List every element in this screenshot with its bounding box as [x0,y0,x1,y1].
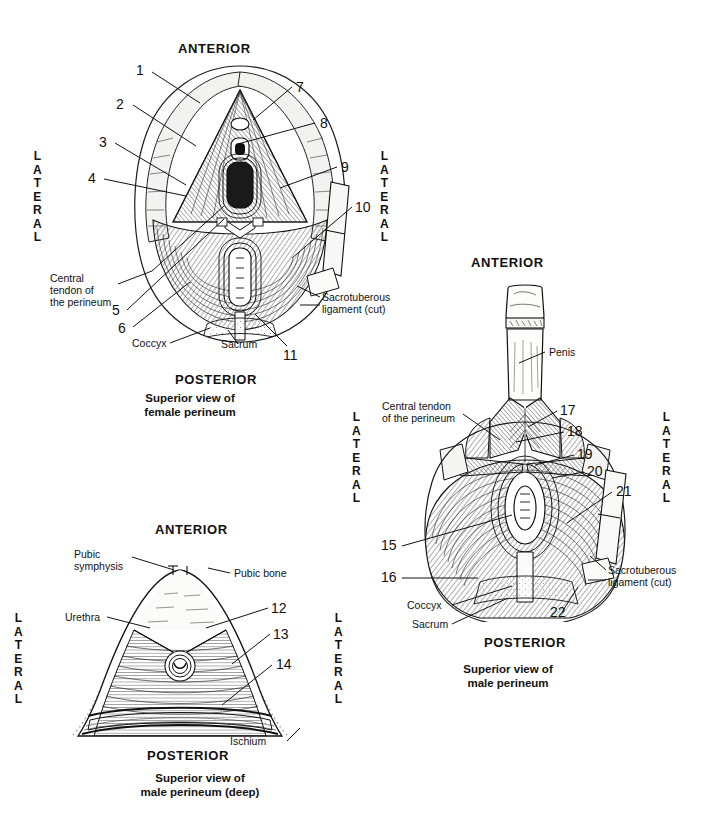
deep-urethra-label: Urethra [65,611,100,623]
deep-number-12: 12 [271,600,287,616]
deep-anterior-label: ANTERIOR [155,522,228,537]
male-deep-leader-lines [0,0,709,828]
deep-lateral-right-label: LATERAL [334,612,343,707]
anatomy-plate: ANTERIOR POSTERIOR LATERAL LATERAL 1 2 3… [0,0,709,828]
deep-lateral-left-label: LATERAL [14,612,23,707]
deep-ischium-label: Ischium [230,735,266,747]
deep-pubic-symphysis-label: Pubic symphysis [74,548,123,572]
deep-number-14: 14 [276,656,292,672]
deep-pubic-bone-label: Pubic bone [234,567,287,579]
deep-posterior-label: POSTERIOR [147,748,229,763]
deep-number-13: 13 [273,626,289,642]
deep-figure-caption: Superior view of male perineum (deep) [110,772,290,799]
